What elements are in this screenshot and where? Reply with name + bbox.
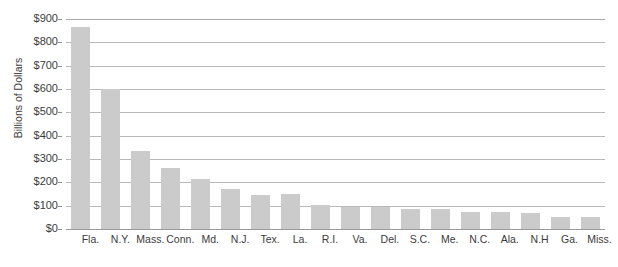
bar xyxy=(581,217,600,229)
y-tick-mark xyxy=(58,206,62,207)
bar xyxy=(521,213,540,229)
bar xyxy=(281,194,300,229)
bar xyxy=(461,212,480,230)
bar xyxy=(431,209,450,229)
y-tick-mark xyxy=(58,182,62,183)
y-tick-mark xyxy=(58,66,62,67)
y-tick-mark xyxy=(58,19,62,20)
chart-title xyxy=(58,0,598,5)
bar xyxy=(161,168,180,229)
y-tick-label: $400 xyxy=(12,129,58,141)
bar xyxy=(221,189,240,229)
x-tick-label: Miss. xyxy=(578,233,618,245)
bars-group xyxy=(66,19,605,229)
y-tick-label: $200 xyxy=(12,175,58,187)
x-axis-tick-labels: Fla.N.Y.Mass.Conn.Md.N.J.Tex.La.R.I.Va.D… xyxy=(66,233,605,251)
y-tick-mark xyxy=(58,89,62,90)
y-tick-mark xyxy=(58,229,62,230)
y-tick-label: $300 xyxy=(12,152,58,164)
bar-chart: Billions of Dollars $0$100$200$300$400$5… xyxy=(0,0,618,267)
y-axis-tick-labels: $0$100$200$300$400$500$600$700$800$900 xyxy=(8,19,58,229)
bar xyxy=(131,151,150,229)
y-tick-label: $0 xyxy=(12,222,58,234)
bar xyxy=(401,209,420,229)
bar xyxy=(311,205,330,230)
y-tick-label: $500 xyxy=(12,105,58,117)
y-tick-label: $600 xyxy=(12,82,58,94)
bar xyxy=(371,207,390,229)
plot-area xyxy=(66,19,605,229)
y-tick-mark xyxy=(58,159,62,160)
bar xyxy=(191,179,210,229)
bar xyxy=(491,212,510,230)
y-tick-mark xyxy=(58,112,62,113)
bar xyxy=(101,89,120,229)
y-tick-label: $700 xyxy=(12,59,58,71)
y-tick-mark xyxy=(58,136,62,137)
y-tick-label: $800 xyxy=(12,35,58,47)
gridline xyxy=(66,229,605,230)
y-tick-mark xyxy=(58,42,62,43)
bar xyxy=(551,217,570,229)
bar xyxy=(71,27,90,229)
bar xyxy=(341,207,360,229)
y-tick-label: $100 xyxy=(12,199,58,211)
bar xyxy=(251,195,270,229)
y-tick-label: $900 xyxy=(12,12,58,24)
